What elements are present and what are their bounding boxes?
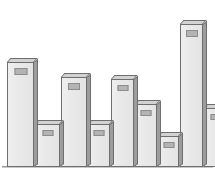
bar-value-label — [141, 110, 152, 116]
bar-value-label — [117, 85, 128, 91]
bar-3[interactable] — [61, 77, 87, 167]
bar-front-face — [61, 77, 87, 167]
bar-front-face — [35, 124, 60, 167]
bar-side-face — [34, 59, 38, 167]
bar-side-face — [203, 21, 207, 167]
bar-front-face — [158, 136, 179, 167]
bar-front-face — [7, 62, 34, 167]
bar-2[interactable] — [35, 124, 60, 167]
bar-4[interactable] — [88, 124, 110, 167]
bar-value-label — [94, 130, 105, 136]
bar-value-label — [14, 68, 27, 75]
bar-value-label — [68, 83, 80, 90]
bar-side-face — [60, 121, 64, 167]
bar-value-label — [163, 142, 174, 148]
bar-8[interactable] — [180, 24, 203, 167]
bar-value-label — [186, 30, 198, 37]
bar-front-face — [88, 124, 110, 167]
bar-front-face — [180, 24, 203, 167]
bar-front-face — [111, 79, 134, 167]
bar-value-label — [210, 114, 215, 120]
bar-side-face — [110, 121, 114, 167]
bar-7[interactable] — [158, 136, 179, 167]
bar-side-face — [134, 76, 138, 167]
bar-chart — [0, 0, 215, 175]
bar-side-face — [179, 133, 183, 167]
bar-front-face — [135, 104, 157, 167]
bar-side-face — [157, 101, 161, 167]
bar-side-face — [87, 74, 91, 167]
bar-6[interactable] — [135, 104, 157, 167]
bar-1[interactable] — [7, 62, 34, 167]
bar-value-label — [42, 130, 53, 136]
plot-area — [0, 0, 215, 175]
bar-5[interactable] — [111, 79, 134, 167]
